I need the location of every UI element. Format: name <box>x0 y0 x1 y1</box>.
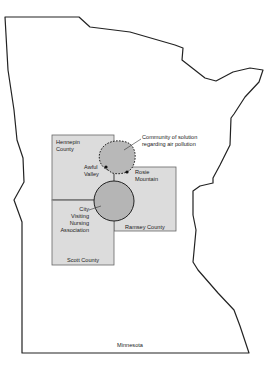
awful-valley-marker <box>104 165 107 168</box>
city-nursing-line1: City <box>56 206 89 213</box>
community-label-line1: Community of solution <box>142 134 197 141</box>
city-nursing-line2: Visiting <box>56 213 89 220</box>
ramsey-county-label: Ramsey County <box>125 224 165 231</box>
awful-valley-line1: Awful <box>84 164 99 171</box>
awful-valley-line2: Valley <box>84 171 99 178</box>
city-nursing-line4: Association <box>56 227 89 234</box>
city-nursing-line3: Nursing <box>56 220 89 227</box>
hennepin-county-label: Hennepin County <box>56 139 80 153</box>
community-label-line2: regarding air pollution <box>142 141 197 148</box>
minnesota-label: Minnesota <box>100 342 160 349</box>
hennepin-label-line2: County <box>56 146 80 153</box>
rosie-mountain-marker <box>125 170 128 173</box>
nursing-association-circle <box>94 181 134 221</box>
community-of-solution-label: Community of solution regarding air poll… <box>142 134 197 148</box>
minnesota-diagram: Hennepin County Community of solution re… <box>0 0 276 369</box>
diagram-canvas <box>0 0 276 369</box>
rosie-mountain-label: Rosie Mountain <box>135 169 158 183</box>
city-nursing-label: City Visiting Nursing Association <box>56 206 89 234</box>
hennepin-label-line1: Hennepin <box>56 139 80 146</box>
scott-county-label: Scott County <box>52 257 114 264</box>
rosie-mountain-line1: Rosie <box>135 169 158 176</box>
rosie-mountain-line2: Mountain <box>135 176 158 183</box>
awful-valley-label: Awful Valley <box>84 164 99 178</box>
